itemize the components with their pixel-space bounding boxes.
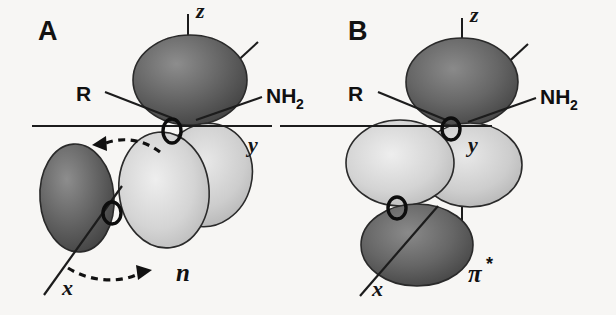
panel-b-orbital-label: π xyxy=(468,260,483,287)
panel-b-orbital-label-star: * xyxy=(486,254,493,274)
panel-b-nh2-label: NH xyxy=(540,85,570,108)
panel-b-mid-left-lobe xyxy=(346,120,454,206)
panel-b-bottom-lobe xyxy=(361,204,473,286)
panel-a-top-lobe xyxy=(133,35,247,125)
molecular-orbital-figure: A z R NH 2 y x xyxy=(0,0,616,315)
panel-b-r-label: R xyxy=(348,82,363,105)
panel-a-x-axis-label: x xyxy=(61,275,73,300)
panel-b-z-axis-label: z xyxy=(469,2,479,27)
figure-root: A z R NH 2 y x xyxy=(0,0,616,315)
panel-a-r-label: R xyxy=(76,82,91,105)
panel-b-x-axis-label: x xyxy=(371,276,383,301)
panel-a-nh2-subscript: 2 xyxy=(296,96,304,112)
panel-a-orbital-label: n xyxy=(176,259,190,286)
panel-b-top-lobe xyxy=(406,38,518,126)
panel-a-letter: A xyxy=(38,16,58,46)
panel-b-nh2-subscript: 2 xyxy=(570,97,578,113)
panel-a-z-axis-label: z xyxy=(195,0,205,23)
panel-a-nh2-label: NH xyxy=(266,84,296,107)
panel-b-letter: B xyxy=(348,16,368,46)
